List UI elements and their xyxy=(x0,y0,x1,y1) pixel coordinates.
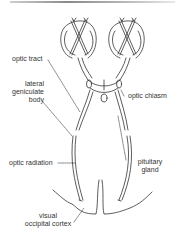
label-lateral-geniculate-body: lateral geniculate body xyxy=(12,80,44,104)
label-pituitary-gland: pituitary gland xyxy=(134,158,166,174)
optic-radiations xyxy=(72,136,132,201)
pituitary-gland-shape xyxy=(101,94,107,102)
left-eye xyxy=(61,18,96,58)
optic-nerves xyxy=(78,58,130,80)
occipital-cortex xyxy=(53,180,152,214)
label-optic-radiation: optic radiation xyxy=(9,159,53,167)
visual-pathway-diagram xyxy=(0,0,178,239)
optic-chiasm xyxy=(87,80,122,102)
label-optic-chiasm: optic chiasm xyxy=(128,92,167,100)
label-optic-tract: optic tract xyxy=(12,55,42,63)
right-eye xyxy=(109,18,144,58)
optic-tracts xyxy=(76,90,128,130)
label-visual-occipital-cortex: visual occipital cortex xyxy=(22,212,74,228)
